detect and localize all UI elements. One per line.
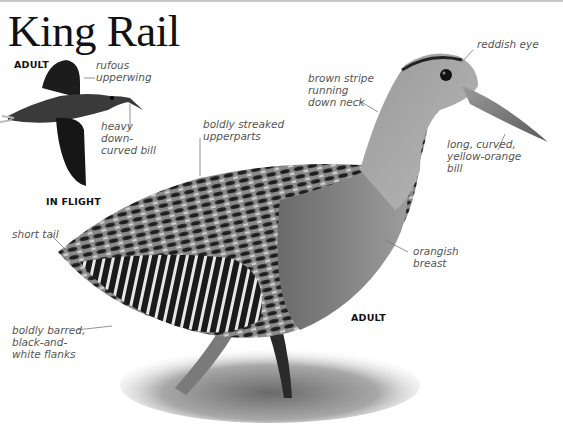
ground-shadow — [120, 347, 420, 423]
annotation-heavy-bill: heavy down- curved bill — [101, 120, 156, 156]
annotation-streaked-upperparts: boldly streaked upperparts — [203, 118, 284, 142]
main-age-label: ADULT — [351, 312, 386, 323]
annotation-orangish-breast: orangish breast — [413, 245, 459, 269]
annotation-short-tail: short tail — [12, 228, 59, 240]
bill — [462, 86, 548, 142]
flight-age-label: ADULT — [14, 59, 49, 70]
flight-caption: IN FLIGHT — [46, 196, 101, 207]
annotation-reddish-eye: reddish eye — [477, 38, 539, 50]
annotation-barred-flanks: boldly barred, black-and- white flanks — [12, 324, 85, 360]
field-guide-page: King Rail — [0, 0, 563, 427]
bird-illustration — [0, 0, 563, 427]
annotation-long-bill: long, curved, yellow-orange bill — [447, 138, 521, 174]
neck-head — [360, 53, 478, 210]
eye — [440, 69, 452, 81]
annotation-brown-stripe: brown stripe running down neck — [308, 72, 374, 108]
annotation-rufous-upperwing: rufous upperwing — [96, 59, 152, 83]
